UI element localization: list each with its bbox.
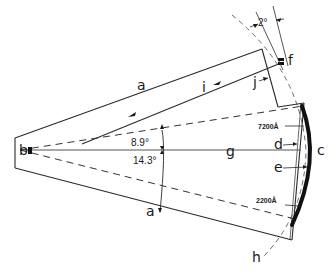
label-b: b (19, 142, 28, 158)
label-d: d (274, 136, 283, 152)
arrowhead-icon (213, 81, 221, 85)
dimension-j (259, 77, 268, 81)
label-j: j (252, 74, 257, 90)
label-f: f (288, 52, 294, 68)
angle-tilt: 2° (258, 17, 268, 28)
wavelength-7200: 7200Å (258, 122, 279, 130)
label-g: g (226, 143, 235, 159)
source-b (28, 147, 32, 154)
label-a-top: a (137, 77, 146, 93)
label-e: e (274, 159, 283, 175)
label-a-bottom: a (146, 203, 155, 219)
angle-upper: 8.9° (131, 137, 149, 148)
wavelength-2200: 2200Å (256, 196, 277, 204)
slit-f (256, 6, 288, 70)
label-c: c (317, 142, 325, 158)
angle-arc (158, 124, 164, 213)
spectrograph-diagram: a a b c d e f g h i j 8.9° 14.3° 2° 7200… (0, 0, 336, 271)
arrowhead-icon (128, 112, 136, 117)
label-i: i (202, 79, 206, 95)
angle-lower: 14.3° (133, 155, 156, 166)
ray-2200 (20, 150, 295, 219)
label-h: h (252, 249, 261, 265)
